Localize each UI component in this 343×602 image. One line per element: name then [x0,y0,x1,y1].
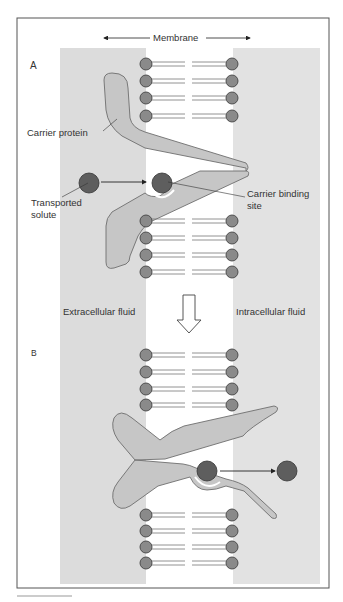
binding-site-label-2: site [247,200,262,211]
transported-solute-label-2: solute [31,209,56,220]
transported-solute-label-1: Transported [31,197,82,208]
solute-a-bound [152,173,172,193]
solute-b-released [197,461,217,481]
membrane-label: Membrane [153,32,198,43]
panel-a-label: A [30,60,37,71]
intracellular-label: Intracellular fluid [236,306,305,317]
carrier-transport-diagram [0,0,343,602]
binding-site-label-1: Carrier binding [247,188,309,199]
carrier-protein-label: Carrier protein [27,127,88,138]
solute-a-outside [79,173,99,193]
extracellular-label: Extracellular fluid [63,306,135,317]
solute-b-inside [277,461,297,481]
panel-b-label: B [31,348,37,358]
